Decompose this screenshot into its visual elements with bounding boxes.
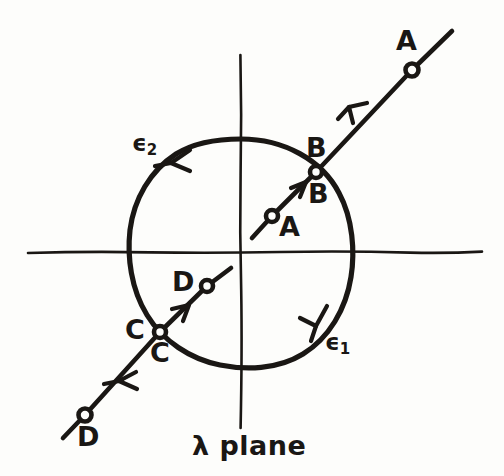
epsilon-two-label: ϵ2 (132, 132, 157, 158)
epsilon1-arrowhead-tail (311, 326, 316, 341)
epsilon-one-symbol: ϵ (325, 329, 340, 355)
epsilon-one-label: ϵ1 (325, 331, 350, 357)
lower-b-label: B (308, 180, 329, 207)
left-c-label: C (125, 316, 145, 343)
figure-caption: λ plane (192, 432, 306, 459)
epsilon2-arrowhead-tail (155, 163, 171, 166)
outer-d-label: D (77, 423, 99, 450)
epsilon-two-symbol: ϵ (132, 130, 147, 156)
cd-inner-ray (160, 268, 231, 332)
inner-d-marker[interactable] (201, 280, 213, 292)
ab-outer-ray (316, 31, 452, 172)
inner-d-label: D (172, 268, 194, 295)
epsilon-one-subscript: 1 (340, 340, 350, 358)
lower-c-label: C (150, 339, 170, 366)
horizontal-axis (28, 252, 482, 253)
inner-a-label: A (279, 213, 300, 240)
upper-b-label: B (306, 134, 327, 161)
vertical-axis (240, 55, 241, 428)
lambda-plane-figure: A B B A D C C D ϵ2 ϵ1 λ plane (0, 0, 504, 476)
outer-a-label: A (396, 27, 417, 54)
epsilon1-arrowhead (300, 306, 327, 326)
outer-d-marker[interactable] (79, 409, 92, 422)
branch-b-marker[interactable] (310, 166, 322, 178)
figure-canvas (0, 0, 504, 476)
inner-a-marker[interactable] (266, 210, 278, 222)
cd-outer-arrowhead-tail (104, 381, 119, 384)
epsilon-two-subscript: 2 (147, 141, 157, 159)
outer-a-marker[interactable] (406, 64, 419, 77)
ab-outer-arrowhead-tail (349, 107, 353, 123)
